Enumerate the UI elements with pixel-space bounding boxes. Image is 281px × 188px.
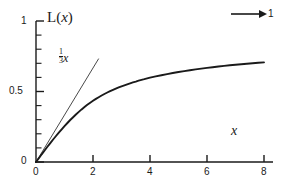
y-axis-title-variable: x [61,9,68,25]
y-axis-title: L(x) [47,10,73,25]
langevin-curve [36,62,264,162]
y-axis-title-close-paren: ) [68,9,73,25]
asymptote-arrow-icon [231,10,267,18]
y-axis-title-letter: L [47,9,56,25]
slope-variable: x [63,51,68,65]
langevin-function-plot: L(x) x 1 0.5 0 0 2 4 6 8 1 13x [0,0,281,188]
plot-canvas [0,0,281,188]
tangent-line-one-third-x [36,59,99,162]
x-tick-label-4: 4 [147,167,153,177]
x-tick-label-6: 6 [204,167,210,177]
y-tick-label-0: 0 [21,156,27,166]
x-axis-major-ticks [93,155,264,162]
slope-annotation: 13x [59,48,68,65]
x-tick-label-8: 8 [261,167,267,177]
asymptote-value-label: 1 [268,9,274,19]
x-tick-label-2: 2 [90,167,96,177]
x-tick-label-0: 0 [33,167,39,177]
y-tick-label-1: 1 [21,16,27,26]
y-tick-label-0-5: 0.5 [9,86,23,96]
y-axis-major-ticks [36,21,44,162]
x-axis-title: x [231,124,237,138]
